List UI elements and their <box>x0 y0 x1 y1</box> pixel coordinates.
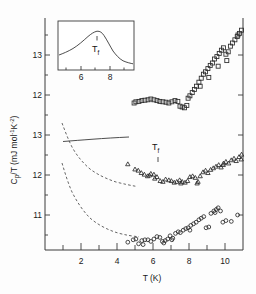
y-axis-label-mid: /T (mJ mol <box>9 135 19 175</box>
data-point <box>126 162 130 166</box>
y-tick-label-lower-12: 12 <box>33 170 43 180</box>
y-tick-label-upper-13: 13 <box>33 50 43 60</box>
data-point <box>197 80 201 84</box>
data-point <box>133 167 137 171</box>
tf-label-main: Tf <box>152 142 160 154</box>
data-series-circles <box>126 206 240 247</box>
data-point <box>225 59 229 63</box>
data-point <box>234 159 238 163</box>
data-point <box>229 220 233 224</box>
y-tick-label-lower-13: 13 <box>33 130 43 140</box>
data-point <box>152 172 156 176</box>
x-tick-label-8: 8 <box>187 256 192 266</box>
data-point <box>207 75 211 79</box>
data-point <box>185 179 189 183</box>
inset-plot: 6 8 Tf <box>58 21 134 82</box>
y-tick-label-upper-12: 12 <box>33 90 43 100</box>
y-axis-ticks-right <box>238 55 243 215</box>
data-point <box>216 64 220 68</box>
y-tick-label-lower-11: 11 <box>33 210 42 220</box>
x-tick-label-10: 10 <box>220 256 230 266</box>
x-tick-label-6: 6 <box>151 256 156 266</box>
data-series-triangles <box>126 152 244 185</box>
y-axis-ticks <box>45 35 50 235</box>
theory-curves <box>62 123 139 237</box>
theory-curve-dashed-lower <box>62 163 139 237</box>
data-point <box>141 243 145 247</box>
y-axis-label: Cp/T (mJ mol-1K-2) <box>9 115 21 184</box>
data-point <box>198 174 202 178</box>
theory-curve-solid-rising <box>63 137 129 142</box>
x-tick-label-2: 2 <box>79 256 84 266</box>
x-axis-label: T (K) <box>143 273 162 283</box>
data-point <box>136 168 140 172</box>
data-point <box>126 240 130 244</box>
svg-text:Cp/T (mJ mol-1K-2): Cp/T (mJ mol-1K-2) <box>9 115 21 184</box>
theory-curve-dashed-upper <box>62 123 137 187</box>
data-point <box>199 76 203 80</box>
inset-tf-sub: f <box>98 49 100 56</box>
figure-svg: 13 12 13 12 11 2 4 6 8 10 T (K) Cp/T (mJ… <box>0 0 256 294</box>
data-point <box>219 209 223 213</box>
x-tick-label-4: 4 <box>115 256 120 266</box>
tf-label-main-f: f <box>158 147 160 154</box>
figure-container: 13 12 13 12 11 2 4 6 8 10 T (K) Cp/T (mJ… <box>0 0 256 294</box>
y-axis-label-close: ) <box>9 115 19 118</box>
tf-annotation-main: Tf <box>152 142 160 162</box>
data-point <box>224 219 228 223</box>
data-point <box>137 242 141 246</box>
data-series-squares <box>132 28 243 110</box>
inset-x-tick-label-6: 6 <box>79 72 84 82</box>
inset-x-tick-label-8: 8 <box>108 72 113 82</box>
